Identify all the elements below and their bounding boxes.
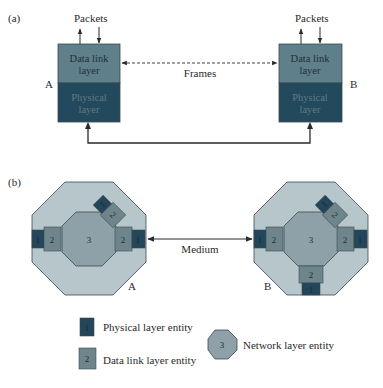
node-b-octagon-name: B (264, 280, 271, 292)
node-a-octagon: 3 1 2 2 1 2 1 A (32, 182, 146, 295)
physical-entity-number: 1 (258, 235, 263, 245)
physical-entity-number: 1 (358, 235, 363, 245)
part-a-label: (a) (8, 12, 21, 25)
node-a-physical-label-2: layer (79, 104, 100, 115)
datalink-entity-number: 2 (309, 270, 314, 280)
link-arrowhead-icon (85, 122, 91, 129)
node-a-octagon-name: A (128, 280, 136, 292)
link-arrowhead-icon (307, 122, 313, 129)
part-b-label: (b) (8, 176, 21, 189)
node-b-packets-label: Packets (295, 12, 329, 24)
datalink-entity-number: 2 (121, 235, 126, 245)
node-b-physical-label-2: layer (300, 104, 321, 115)
node-a-packets-label: Packets (74, 12, 108, 24)
node-b-stack: Packets Data link layer Physical layer B (279, 12, 357, 122)
frames-label: Frames (184, 67, 216, 79)
legend-physical-label: Physical layer entity (103, 321, 193, 333)
medium-label: Medium (181, 243, 219, 255)
node-a-stack: Packets Data link layer Physical layer A (45, 12, 120, 122)
datalink-entity-number: 2 (272, 235, 277, 245)
node-a-datalink-label-1: Data link (70, 53, 110, 64)
physical-entity-number: 1 (309, 285, 314, 295)
physical-link-line (88, 124, 310, 143)
node-b-datalink-label-2: layer (300, 65, 321, 76)
node-b-physical-label-1: Physical (292, 92, 328, 103)
node-a-physical-label-1: Physical (71, 92, 107, 103)
node-b-name: B (350, 78, 357, 90)
node-b-octagon: 3 1 2 2 1 2 1 2 1 B (254, 182, 368, 295)
protocol-layers-figure: (a) Packets Data link layer Physical lay… (0, 0, 383, 388)
node-a-datalink-label-2: layer (79, 65, 100, 76)
legend-datalink-label: Data link layer entity (103, 354, 197, 366)
physical-entity-number: 1 (136, 235, 141, 245)
physical-entity-number: 1 (36, 235, 41, 245)
network-entity-number: 3 (87, 235, 92, 245)
legend: 1 Physical layer entity 2 Data link laye… (79, 318, 335, 369)
datalink-entity-number: 2 (50, 235, 55, 245)
network-entity-number: 3 (309, 235, 314, 245)
legend-network-symbol: 3 (220, 340, 225, 350)
node-a-name: A (45, 78, 53, 90)
legend-datalink-symbol: 2 (85, 354, 90, 364)
legend-network-label: Network layer entity (243, 339, 335, 351)
legend-physical-symbol: 1 (85, 323, 90, 333)
datalink-entity-number: 2 (343, 235, 348, 245)
node-b-datalink-label-1: Data link (291, 53, 331, 64)
